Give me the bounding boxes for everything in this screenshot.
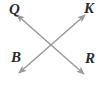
line-b-k: [19, 15, 85, 73]
geometry-figure: Q K B R: [0, 0, 103, 85]
point-label-b: B: [11, 50, 21, 65]
point-label-k: K: [84, 1, 94, 16]
point-label-r: R: [85, 51, 95, 66]
point-label-q: Q: [9, 2, 20, 17]
